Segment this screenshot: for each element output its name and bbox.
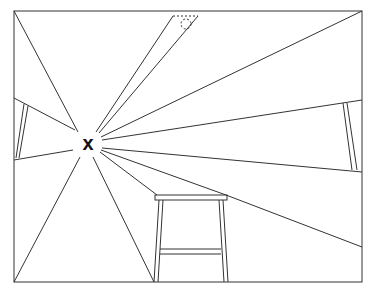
sightline-diagram	[0, 0, 377, 294]
right-window	[102, 100, 362, 172]
room-frame	[14, 11, 362, 282]
sightlines	[14, 11, 362, 282]
ceiling-lamp-icon	[173, 16, 198, 29]
stool	[154, 195, 228, 282]
left-window	[14, 98, 75, 160]
viewpoint-marker: x	[82, 133, 93, 153]
